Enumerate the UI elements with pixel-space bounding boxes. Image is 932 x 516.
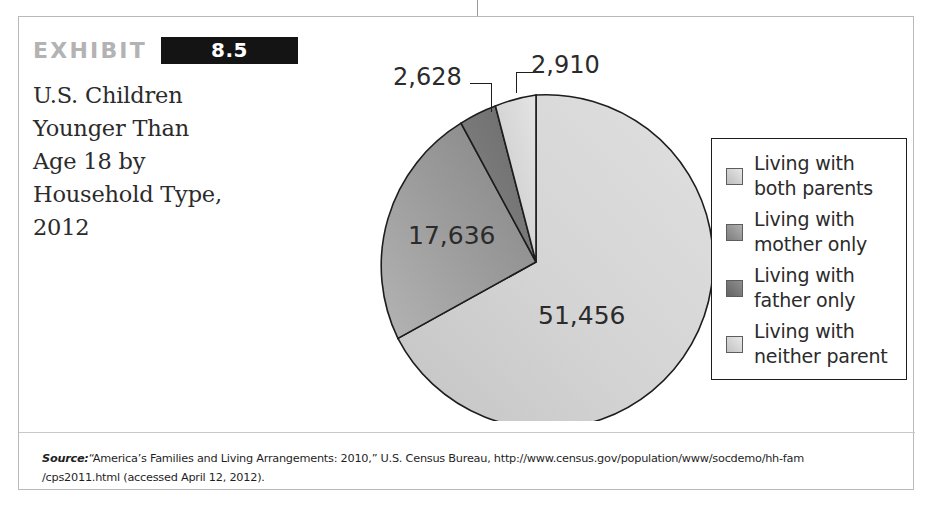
legend-label-father-only: Living with father only [754, 263, 855, 313]
source-line-2: /cps2011.html (accessed April 12, 2012). [42, 471, 265, 484]
chart-area: 51,456 17,636 2,628 2,910 Living with bo… [19, 17, 915, 432]
source-divider [19, 432, 915, 433]
pie-value-both-parents: 51,456 [538, 303, 625, 328]
legend-label-line1: Living with [754, 263, 855, 288]
chart-legend: Living with both parents Living with mot… [711, 138, 907, 380]
legend-label-neither-parent: Living with neither parent [754, 319, 888, 369]
pie-value-father-only: 2,628 [393, 65, 462, 89]
source-line-1: “America’s Families and Living Arrangeme… [89, 452, 804, 465]
source-note: Source:“America’s Families and Living Ar… [42, 449, 902, 487]
legend-swatch-neither-parent-icon [726, 336, 743, 353]
pie-chart [333, 61, 713, 421]
legend-label-line2: both parents [754, 176, 873, 201]
legend-label-mother-only: Living with mother only [754, 207, 867, 257]
legend-label-line2: mother only [754, 232, 867, 257]
legend-label-line1: Living with [754, 151, 873, 176]
legend-label-line2: neither parent [754, 344, 888, 369]
legend-swatch-father-only-icon [726, 280, 743, 297]
legend-label-both-parents: Living with both parents [754, 151, 873, 201]
pie-value-neither-parent: 2,910 [531, 53, 600, 77]
legend-item-mother-only: Living with mother only [712, 207, 906, 257]
page-column-rule [477, 0, 478, 17]
legend-item-both-parents: Living with both parents [712, 151, 906, 201]
leader-line-father-only [470, 83, 492, 113]
pie-chart-svg [333, 61, 713, 421]
pie-value-mother-only: 17,636 [408, 223, 495, 248]
legend-swatch-both-parents-icon [726, 168, 743, 185]
legend-swatch-mother-only-icon [726, 224, 743, 241]
exhibit-frame: EXHIBIT 8.5 U.S. Children Younger Than A… [18, 16, 914, 490]
legend-item-neither-parent: Living with neither parent [712, 319, 906, 369]
legend-label-line2: father only [754, 288, 855, 313]
legend-label-line1: Living with [754, 319, 888, 344]
legend-item-father-only: Living with father only [712, 263, 906, 313]
source-label: Source: [42, 452, 89, 465]
legend-label-line1: Living with [754, 207, 867, 232]
